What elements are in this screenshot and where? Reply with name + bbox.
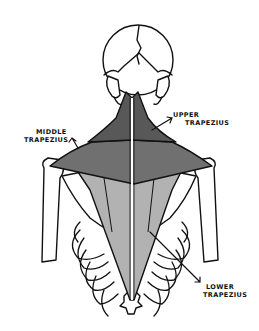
lower-arrow-icon [150, 232, 200, 282]
lower-label-line2: TRAPEZIUS [203, 291, 247, 299]
middle-trapezius-label: MIDDLE TRAPEZIUS [24, 128, 68, 144]
upper-arrow-icon [152, 117, 172, 130]
upper-label-line2: TRAPEZIUS [185, 119, 229, 127]
right-humerus [194, 158, 218, 262]
middle-label-line1: MIDDLE [36, 128, 68, 136]
lower-label-line1: LOWER [206, 283, 247, 291]
middle-label-line2: TRAPEZIUS [24, 136, 68, 144]
middle-arrow-icon [69, 138, 78, 148]
left-humerus [42, 158, 64, 262]
lower-trapezius-label: LOWER TRAPEZIUS [203, 283, 247, 299]
upper-label-line1: UPPER [173, 111, 229, 119]
trapezius-illustration [0, 0, 259, 331]
upper-trapezius-label: UPPER TRAPEZIUS [173, 111, 229, 127]
